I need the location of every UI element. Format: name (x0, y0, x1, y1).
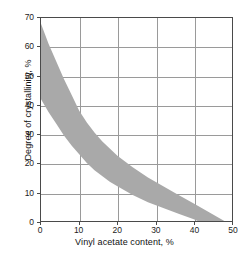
ytick-mark-40 (37, 105, 40, 106)
xtick-label-40: 40 (181, 225, 207, 235)
xtick-label-10: 10 (66, 225, 92, 235)
ytick-mark-70 (37, 17, 40, 18)
ytick-mark-10 (37, 193, 40, 194)
ytick-label-70: 70 (12, 12, 34, 22)
y-axis-title: Degree of crystallinity, % (23, 30, 33, 190)
crystallinity-band (41, 18, 232, 221)
chart-figure: 0 10 20 30 40 50 0 10 20 30 40 50 60 70 … (0, 0, 249, 255)
plot-area (40, 17, 233, 222)
ytick-mark-60 (37, 46, 40, 47)
xtick-label-50: 50 (220, 225, 246, 235)
ytick-label-0: 0 (12, 217, 34, 227)
ytick-mark-20 (37, 163, 40, 164)
x-axis-title: Vinyl acetate content, % (0, 237, 249, 247)
xtick-label-30: 30 (143, 225, 169, 235)
ytick-mark-50 (37, 76, 40, 77)
xtick-label-20: 20 (104, 225, 130, 235)
ytick-mark-0 (37, 222, 40, 223)
ytick-mark-30 (37, 134, 40, 135)
